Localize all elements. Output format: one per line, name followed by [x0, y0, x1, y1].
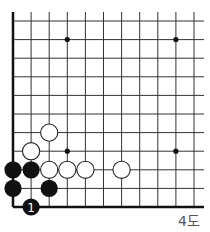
go-board-diagram: 1: [0, 0, 210, 232]
white-stone: [41, 161, 58, 178]
diagram-caption: 4도: [178, 210, 200, 230]
white-stone: [41, 124, 58, 141]
black-stone: [4, 180, 21, 197]
black-stone: [4, 161, 21, 178]
black-stone: [23, 161, 40, 178]
white-stone: [113, 161, 130, 178]
white-stone: [23, 143, 40, 160]
move-number-label: 1: [27, 201, 35, 215]
star-point: [65, 37, 70, 42]
star-point: [173, 149, 178, 154]
white-stone: [59, 161, 76, 178]
white-stone: [77, 161, 94, 178]
star-point: [173, 37, 178, 42]
star-point: [65, 149, 70, 154]
black-stone: [41, 180, 58, 197]
